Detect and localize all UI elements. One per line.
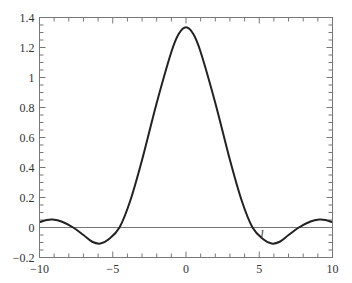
y-tick-label: 0.2 [20, 191, 35, 205]
y-tick-label: 0.6 [20, 131, 35, 145]
y-tick-label: −0.2 [13, 251, 35, 265]
x-tick-label: 5 [256, 262, 262, 276]
line-chart: −10−50510−0.200.20.40.60.811.21.4 l [0, 0, 352, 283]
axis-ticks [40, 18, 333, 258]
y-tick-label: 0 [29, 221, 35, 235]
chart-container: −10−50510−0.200.20.40.60.811.21.4 l [0, 0, 352, 283]
y-tick-label: 0.4 [20, 161, 35, 175]
plot-frame [40, 18, 333, 258]
y-tick-label: 1 [29, 71, 35, 85]
x-tick-label: −5 [106, 262, 119, 276]
tick-labels: −10−50510−0.200.20.40.60.811.21.4 [13, 11, 339, 276]
data-curve [40, 27, 333, 243]
x-tick-label: 0 [183, 262, 189, 276]
y-tick-label: 0.8 [20, 101, 35, 115]
x-tick-label: 10 [327, 262, 339, 276]
y-tick-label: 1.4 [20, 11, 35, 25]
y-tick-label: 1.2 [20, 41, 35, 55]
